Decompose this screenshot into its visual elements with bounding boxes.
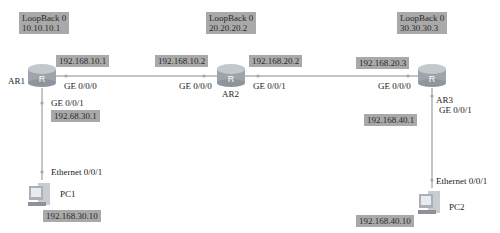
loopback-ip: 20.20.20.2 (209, 23, 253, 33)
loopback-title: LoopBack 0 (209, 13, 253, 23)
ar2-g001-port: GE 0/0/1 (253, 81, 286, 91)
pc2-name: PC2 (449, 202, 465, 212)
port-dot (406, 74, 409, 77)
port-dot (256, 74, 259, 77)
ar1-g001-port: GE 0/0/1 (51, 98, 84, 108)
port-dot (430, 178, 433, 181)
ar1-loopback-label: LoopBack 0 10.10.10.1 (19, 12, 69, 34)
pc1-ip: 192.168.30.10 (43, 210, 101, 222)
ar1-name: AR1 (8, 76, 25, 86)
port-dot (40, 170, 43, 173)
ar1-g000-ip: 192.168.10.1 (56, 55, 109, 67)
pc-icon-pc2[interactable] (416, 188, 446, 218)
ar2-g000-ip: 192.168.10.2 (155, 55, 208, 67)
ar3-g000-ip: 192.168.20.3 (356, 57, 409, 69)
ar3-g000-port: GE 0/0/0 (378, 81, 411, 91)
ar3-g001-port: GE 0/0/1 (439, 105, 472, 115)
loopback-ip: 10.10.10.1 (22, 23, 66, 33)
ar2-loopback-label: LoopBack 0 20.20.20.2 (206, 12, 256, 34)
ar3-name: AR3 (436, 95, 453, 105)
svg-text:R: R (228, 74, 235, 84)
ar2-g001-ip: 192.168.20.2 (249, 55, 302, 67)
pc1-name: PC1 (60, 189, 76, 199)
port-dot (40, 101, 43, 104)
ar2-name: AR2 (222, 89, 239, 99)
ar2-g000-port: GE 0/0/0 (179, 81, 212, 91)
loopback-title: LoopBack 0 (22, 13, 66, 23)
router-icon-ar3[interactable]: R (417, 62, 447, 88)
port-dot (430, 94, 433, 97)
ar3-loopback-label: LoopBack 0 30.30.30.3 (397, 12, 447, 34)
svg-text:R: R (429, 74, 436, 84)
router-icon-ar1[interactable]: R (27, 62, 57, 88)
pc-icon-pc1[interactable] (26, 180, 56, 210)
ar1-g001-ip: 192.68.30.1 (51, 110, 100, 122)
ar1-g000-port: GE 0/0/0 (64, 81, 97, 91)
loopback-ip: 30.30.30.3 (400, 23, 444, 33)
ar3-g001-ip: 192.168.40.1 (364, 114, 417, 126)
svg-text:R: R (39, 74, 46, 84)
loopback-title: LoopBack 0 (400, 13, 444, 23)
pc2-ip: 192.168.40.10 (356, 215, 414, 227)
port-dot (202, 74, 205, 77)
router-icon-ar2[interactable]: R (216, 62, 246, 88)
port-dot (64, 74, 67, 77)
pc1-interface: Ethernet 0/0/1 (51, 167, 102, 177)
pc2-interface: Ethernet 0/0/1 (436, 176, 487, 186)
